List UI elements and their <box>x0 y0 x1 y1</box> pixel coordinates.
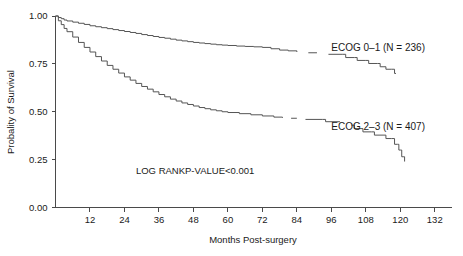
x-tick-label: 132 <box>427 214 443 225</box>
series-label-ecog-2-3: ECOG 2–3 (N = 407) <box>331 121 425 132</box>
series-label-ecog-0-1: ECOG 0–1 (N = 236) <box>331 42 425 53</box>
x-axis-title: Months Post-surgery <box>209 234 297 245</box>
x-tick-label: 120 <box>392 214 408 225</box>
survival-curve-ecog-2-3 <box>56 16 283 118</box>
x-tick-label: 24 <box>119 214 130 225</box>
y-tick-label: 0.50 <box>29 106 48 117</box>
y-tick-group: 0.000.250.500.751.00 <box>29 10 56 213</box>
x-tick-label: 48 <box>188 214 199 225</box>
x-tick-label: 72 <box>257 214 268 225</box>
y-tick-label: 0.75 <box>29 58 48 69</box>
y-tick-label: 0.25 <box>29 154 48 165</box>
y-tick-label: 1.00 <box>29 10 48 21</box>
survival-curve-ecog-0-1 <box>328 54 396 73</box>
x-tick-label: 108 <box>358 214 374 225</box>
x-tick-label: 84 <box>292 214 303 225</box>
survival-curve-ecog-0-1 <box>56 16 297 52</box>
x-axis-group: 1224364860728496108120132 <box>56 208 453 225</box>
x-tick-group: 1224364860728496108120132 <box>85 208 443 225</box>
y-tick-label: 0.00 <box>29 202 48 213</box>
log-rank-annotation: LOG RANKP-VALUE<0.001 <box>136 165 254 176</box>
curve-group <box>56 16 405 162</box>
annotation-group: LOG RANKP-VALUE<0.001 <box>136 165 254 176</box>
x-tick-label: 12 <box>85 214 96 225</box>
x-tick-label: 96 <box>326 214 337 225</box>
x-tick-label: 60 <box>223 214 234 225</box>
survival-chart: 0.000.250.500.751.00 1224364860728496108… <box>0 0 463 256</box>
y-axis-title: Probality of Survival <box>5 70 16 154</box>
y-axis-group: 0.000.250.500.751.00 <box>29 10 56 213</box>
chart-page: 0.000.250.500.751.00 1224364860728496108… <box>0 0 463 256</box>
x-tick-label: 36 <box>154 214 165 225</box>
